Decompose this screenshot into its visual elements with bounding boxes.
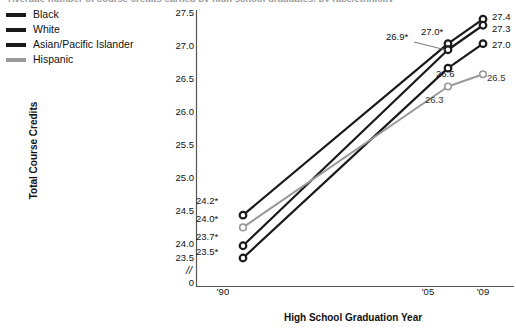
data-point-marker[interactable]: [240, 242, 247, 249]
data-label-white-2009: 27.4: [492, 12, 511, 22]
data-label-white-2005: 27.0*: [421, 27, 443, 37]
data-label-white-1990: 24.2*: [196, 196, 218, 206]
data-label-asian-2005: 26.9*: [386, 32, 408, 42]
data-label-asian-1990: 23.7*: [196, 232, 218, 242]
data-label-hispanic-2009: 26.5: [487, 73, 506, 83]
series-hispanic[interactable]: [240, 71, 487, 231]
series-layer: [240, 16, 487, 261]
data-point-marker[interactable]: [480, 22, 487, 29]
data-point-marker[interactable]: [445, 46, 452, 53]
data-label-black-2005: 26.6: [436, 69, 455, 79]
data-point-marker[interactable]: [480, 71, 487, 78]
data-label-black-1990: 23.5*: [196, 247, 218, 257]
series-line: [243, 25, 483, 246]
data-label-black-2009: 27.0: [492, 40, 511, 50]
data-label-asian-2009: 27.3: [492, 24, 511, 34]
chart-figure: Average number of course credits earned …: [0, 0, 516, 330]
data-label-hispanic-2005: 26.3: [425, 95, 444, 105]
label-leader-line: [414, 42, 445, 50]
data-point-marker[interactable]: [240, 255, 247, 262]
data-point-marker[interactable]: [480, 40, 487, 47]
data-label-hispanic-1990: 24.0*: [196, 214, 218, 224]
data-point-marker[interactable]: [240, 224, 247, 231]
data-point-marker[interactable]: [445, 83, 452, 90]
series-line: [243, 74, 483, 227]
data-point-marker[interactable]: [240, 212, 247, 219]
series-asian-pacific-islander[interactable]: [240, 22, 487, 249]
plot-area: [0, 0, 516, 330]
